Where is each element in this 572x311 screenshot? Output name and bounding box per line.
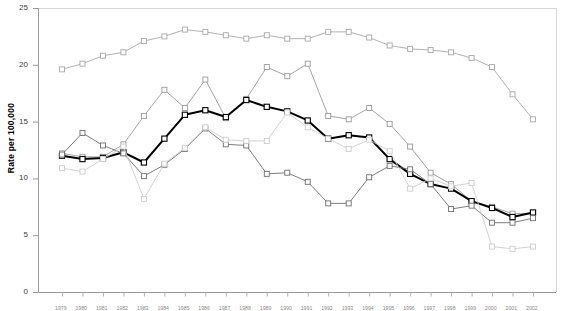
x-axis-tick-label: 1985: [178, 305, 190, 311]
series-marker: [162, 136, 167, 141]
x-axis-tick-label: 1998: [444, 305, 456, 311]
y-axis-tick-label: 10: [8, 173, 28, 182]
series-marker: [346, 201, 351, 206]
series-marker: [326, 136, 331, 141]
series-marker: [264, 65, 269, 70]
x-axis-tick-label: 1989: [260, 305, 272, 311]
series-marker: [285, 74, 290, 79]
series-marker: [182, 27, 187, 32]
x-axis-tick-label: 1990: [280, 305, 292, 311]
series-marker: [285, 170, 290, 175]
series-marker: [387, 156, 392, 161]
series-marker: [326, 113, 331, 118]
series-marker: [60, 166, 65, 171]
series-marker: [80, 169, 85, 174]
series-marker: [244, 97, 249, 102]
series-marker: [531, 244, 536, 249]
x-axis-tick-label: 1994: [362, 305, 374, 311]
series-marker: [387, 43, 392, 48]
data-series: [59, 97, 535, 219]
series-marker: [141, 38, 146, 43]
x-axis-tick-label: 1980: [75, 305, 87, 311]
x-axis-tick-label: 1997: [424, 305, 436, 311]
x-axis-tick-label: 1992: [321, 305, 333, 311]
data-series: [60, 126, 536, 225]
y-axis-tick-label: 15: [8, 117, 28, 126]
series-marker: [387, 163, 392, 168]
series-marker: [531, 117, 536, 122]
series-marker: [490, 220, 495, 225]
series-marker: [346, 117, 351, 122]
series-marker: [367, 35, 372, 40]
series-marker: [100, 157, 105, 162]
series-marker: [182, 112, 187, 117]
series-marker: [305, 118, 310, 123]
y-axis-ticks: [33, 9, 39, 293]
series-marker: [60, 152, 65, 157]
series-marker: [223, 114, 228, 119]
series-marker: [223, 137, 228, 142]
y-axis-tick-label: 0: [8, 287, 28, 296]
series-marker: [490, 244, 495, 249]
series-marker: [428, 48, 433, 53]
series-marker: [489, 205, 494, 210]
x-axis-tick-label: 2001: [506, 305, 518, 311]
series-marker: [449, 184, 454, 189]
series-marker: [510, 220, 515, 225]
x-axis-tick-label: 1999: [465, 305, 477, 311]
x-axis-ticks: [63, 293, 534, 297]
data-series-group: [59, 27, 535, 251]
series-marker: [428, 170, 433, 175]
series-marker: [530, 210, 535, 215]
series-marker: [305, 125, 310, 130]
series-marker: [223, 33, 228, 38]
series-marker: [162, 34, 167, 39]
data-series: [60, 110, 536, 251]
y-axis-tick-label: 20: [8, 60, 28, 69]
series-marker: [121, 50, 126, 55]
series-marker: [60, 67, 65, 72]
series-marker: [326, 29, 331, 34]
series-marker: [182, 105, 187, 110]
series-marker: [510, 214, 515, 219]
series-marker: [141, 174, 146, 179]
series-marker: [326, 201, 331, 206]
x-axis-tick-label: 1981: [96, 305, 108, 311]
series-marker: [141, 196, 146, 201]
series-marker: [285, 36, 290, 41]
series-line: [62, 30, 533, 120]
series-marker: [100, 143, 105, 148]
series-marker: [346, 146, 351, 151]
series-marker: [408, 144, 413, 149]
series-marker: [264, 138, 269, 143]
series-marker: [469, 203, 474, 208]
series-marker: [408, 167, 413, 172]
series-marker: [367, 137, 372, 142]
series-marker: [141, 160, 146, 165]
series-marker: [510, 246, 515, 251]
x-axis-tick-label: 2000: [485, 305, 497, 311]
x-axis-tick-label: 1995: [383, 305, 395, 311]
series-marker: [244, 36, 249, 41]
x-axis-tick-label: 1987: [219, 305, 231, 311]
series-marker: [367, 105, 372, 110]
series-marker: [346, 133, 351, 138]
series-marker: [305, 36, 310, 41]
series-marker: [203, 29, 208, 34]
series-marker: [449, 50, 454, 55]
series-marker: [449, 207, 454, 212]
y-axis-tick-label: 5: [8, 230, 28, 239]
series-marker: [346, 29, 351, 34]
series-marker: [244, 138, 249, 143]
series-marker: [428, 176, 433, 181]
x-axis-tick-label: 1983: [137, 305, 149, 311]
x-axis-tick-label: 1996: [403, 305, 415, 311]
series-marker: [80, 61, 85, 66]
series-marker: [121, 144, 126, 149]
axes: [33, 8, 557, 297]
series-marker: [305, 61, 310, 66]
series-marker: [264, 104, 269, 109]
series-marker: [141, 113, 146, 118]
series-marker: [531, 216, 536, 221]
series-line: [62, 64, 533, 214]
